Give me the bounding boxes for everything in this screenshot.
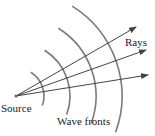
rays-label: Rays xyxy=(125,37,147,48)
wave-diagram: Source Rays Wave fronts xyxy=(0,0,155,136)
source-point xyxy=(14,94,17,97)
wave-front-arc xyxy=(58,28,96,123)
wave-front-arc xyxy=(72,6,122,132)
wave-fronts xyxy=(31,6,122,132)
wave-front-arc xyxy=(45,50,70,114)
ray-arrow xyxy=(16,75,148,96)
ray-arrow xyxy=(16,50,146,96)
source-label: Source xyxy=(1,103,32,114)
ray-arrow xyxy=(16,27,136,96)
wave-fronts-label: Wave fronts xyxy=(57,116,110,127)
